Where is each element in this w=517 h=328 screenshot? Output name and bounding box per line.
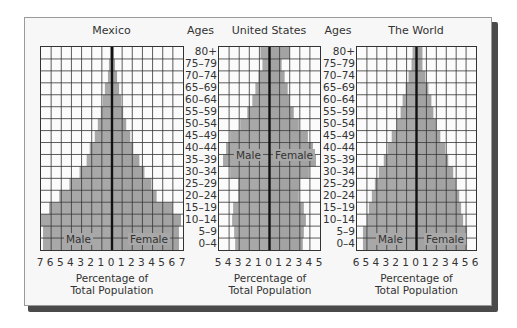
age-labels-right: 80+75–7970–7465–6960–6455–5950–5445–4940… [321, 45, 355, 249]
x-tick-label: 0 [265, 256, 272, 268]
x-tick-label: 6 [47, 256, 54, 268]
age-group-label: 75–79 [321, 57, 355, 69]
bar-female [270, 190, 299, 202]
bar-male [379, 166, 417, 178]
bar-male [384, 154, 417, 166]
x-tick-label: 7 [179, 256, 186, 268]
bar-female [270, 166, 309, 178]
age-group-label: 50–54 [184, 117, 217, 129]
chart-title-us: United States [218, 24, 320, 37]
bar-male [258, 71, 269, 83]
x-tick-label: 2 [392, 256, 399, 268]
bar-female [112, 166, 144, 178]
chart-title-world: The World [356, 24, 476, 37]
bar-male [87, 154, 112, 166]
ages-header-1: Ages [183, 24, 218, 37]
bar-female [112, 143, 133, 155]
x-tick-label: 1 [402, 256, 409, 268]
bar-female [270, 226, 304, 238]
x-tick-label: 2 [245, 256, 252, 268]
bar-female [417, 190, 460, 202]
bar-female [112, 131, 130, 143]
age-group-label: 60–64 [184, 93, 217, 105]
age-group-label: 15–19 [184, 201, 217, 213]
x-tick-label: 0 [412, 256, 419, 268]
x-tick-label: 6 [472, 256, 479, 268]
chart-title-mexico: Mexico [40, 24, 183, 37]
bar-female [270, 238, 303, 250]
age-group-label: 5–9 [184, 225, 217, 237]
bar-male [98, 119, 112, 131]
bar-male [247, 107, 269, 119]
x-axis-label-line2: Total Population [356, 284, 477, 296]
bar-male [49, 202, 112, 214]
bar-female [270, 107, 294, 119]
bar-male [233, 202, 269, 214]
bar-female [417, 107, 434, 119]
age-group-label: 20–24 [321, 189, 355, 201]
x-tick-label: 6 [353, 256, 360, 268]
age-group-label: 10–14 [184, 213, 217, 225]
bar-male [369, 202, 417, 214]
x-tick-label: 0 [108, 256, 115, 268]
age-group-label: 80+ [321, 45, 355, 57]
age-group-label: 35–39 [184, 153, 217, 165]
age-group-label: 15–19 [321, 201, 355, 213]
x-tick-label: 1 [255, 256, 262, 268]
bar-male [392, 131, 417, 143]
bar-female [112, 178, 152, 190]
age-group-label: 35–39 [321, 153, 355, 165]
x-tick-label: 7 [37, 256, 44, 268]
age-group-label: 10–14 [321, 213, 355, 225]
x-tick-label: 4 [148, 256, 155, 268]
age-group-label: 25–29 [321, 177, 355, 189]
age-group-label: 45–49 [184, 129, 217, 141]
x-ticks-mexico: 765432101234567 [40, 256, 184, 270]
x-axis-label-us: Percentage of Total Population [210, 272, 330, 296]
x-axis-label-mexico: Percentage of Total Population [40, 272, 184, 296]
bar-male [41, 214, 112, 226]
age-group-label: 40–44 [184, 141, 217, 153]
bar-female [270, 131, 308, 143]
pyramid-mexico [40, 46, 184, 251]
bar-female [417, 154, 449, 166]
age-group-label: 5–9 [321, 225, 355, 237]
bar-male [255, 83, 269, 95]
bar-female [112, 95, 121, 107]
age-group-label: 45–49 [321, 129, 355, 141]
bar-female [112, 190, 157, 202]
age-group-label: 25–29 [184, 177, 217, 189]
age-group-label: 20–24 [184, 189, 217, 201]
x-axis-label-line2: Total Population [40, 284, 184, 296]
x-axis-label-line1: Percentage of [356, 272, 477, 284]
age-group-label: 55–59 [321, 105, 355, 117]
male-label-mexico: Male [64, 233, 93, 245]
age-group-label: 40–44 [321, 141, 355, 153]
x-tick-label: 4 [225, 256, 232, 268]
bar-male [101, 107, 112, 119]
female-label-mexico: Female [128, 233, 170, 245]
bar-female [417, 95, 432, 107]
pyramid-svg [41, 47, 183, 250]
age-group-label: 60–64 [321, 93, 355, 105]
x-tick-label: 4 [306, 256, 313, 268]
male-label-us: Male [234, 149, 263, 161]
age-group-label: 55–59 [184, 105, 217, 117]
x-tick-label: 3 [295, 256, 302, 268]
bar-female [270, 214, 306, 226]
x-axis-label-line1: Percentage of [40, 272, 184, 284]
x-ticks-us: 54321012345 [218, 256, 321, 270]
x-ticks-world: 6543210123456 [356, 256, 477, 270]
bar-male [406, 83, 417, 95]
bar-female [270, 119, 299, 131]
bar-male [240, 119, 269, 131]
bar-male [235, 238, 269, 250]
age-group-label: 80+ [184, 45, 217, 57]
bar-male [103, 95, 112, 107]
x-tick-label: 6 [169, 256, 176, 268]
x-tick-label: 1 [98, 256, 105, 268]
x-tick-label: 5 [158, 256, 165, 268]
bar-male [238, 190, 269, 202]
age-group-label: 0–4 [184, 237, 217, 249]
x-tick-label: 3 [138, 256, 145, 268]
